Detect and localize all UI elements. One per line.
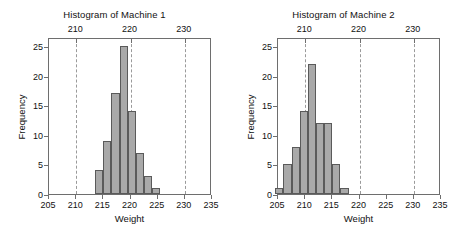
histogram-bar: [120, 46, 128, 194]
top-axis: 210220230: [277, 24, 440, 38]
x-axis-tick-mark: [48, 195, 49, 199]
x-axis-tick-mark: [359, 195, 360, 199]
y-axis-label: Frequency: [16, 47, 27, 187]
histogram-bar: [332, 164, 340, 194]
x-axis-tick-label: 235: [432, 200, 447, 210]
top-axis-tick-label: 210: [68, 24, 83, 34]
top-axis-tick-mark: [305, 39, 306, 43]
x-axis-tick-label: 230: [176, 200, 191, 210]
top-axis-tick-label: 210: [297, 24, 312, 34]
x-axis: Weight 205210215220225230235: [48, 195, 211, 225]
x-axis-tick-mark: [157, 195, 158, 199]
top-axis-tick-mark: [360, 39, 361, 43]
top-axis-tick-label: 230: [176, 24, 191, 34]
y-axis-tick-mark: [44, 47, 48, 48]
histogram-bar: [292, 147, 300, 194]
histogram-bar: [283, 164, 291, 194]
gridline-vertical: [360, 39, 361, 194]
x-axis-label: Weight: [48, 213, 211, 224]
x-axis-tick-label: 235: [203, 200, 218, 210]
x-axis-label: Weight: [277, 213, 440, 224]
gridline-vertical: [76, 39, 77, 194]
y-axis: Frequency 0510152025: [229, 38, 277, 195]
x-axis-tick-label: 225: [149, 200, 164, 210]
x-axis-tick-label: 205: [40, 200, 55, 210]
x-axis-tick-label: 230: [405, 200, 420, 210]
y-axis-tick-label: 15: [262, 101, 272, 111]
chart-panel-machine-2: Histogram of Machine 2 210220230 Frequen…: [229, 0, 458, 238]
y-axis-tick-label: 15: [33, 101, 43, 111]
top-axis-tick-mark: [185, 39, 186, 43]
histogram-bar: [95, 170, 103, 194]
histogram-bar: [136, 153, 144, 194]
histogram-bar: [103, 141, 111, 194]
y-axis-tick-label: 5: [38, 160, 43, 170]
top-axis-tick-label: 220: [351, 24, 366, 34]
y-axis-tick-label: 10: [262, 131, 272, 141]
top-axis-tick-mark: [76, 39, 77, 43]
histogram-bar: [111, 93, 119, 194]
gridline-vertical: [185, 39, 186, 194]
y-axis-tick-mark: [273, 165, 277, 166]
x-axis: Weight 205210215220225230235: [277, 195, 440, 225]
y-axis-tick-label: 10: [33, 131, 43, 141]
y-axis-tick-label: 25: [262, 42, 272, 52]
top-axis-tick-mark: [131, 39, 132, 43]
y-axis-tick-mark: [273, 47, 277, 48]
x-axis-tick-mark: [277, 195, 278, 199]
histogram-bar: [144, 176, 152, 194]
y-axis-tick-label: 0: [267, 190, 272, 200]
x-axis-tick-mark: [331, 195, 332, 199]
y-axis-tick-mark: [44, 77, 48, 78]
histogram-bar: [128, 111, 136, 194]
x-axis-tick-mark: [413, 195, 414, 199]
histogram-figure: Histogram of Machine 1 210220230 Frequen…: [0, 0, 459, 238]
x-axis-tick-label: 210: [68, 200, 83, 210]
x-axis-tick-mark: [130, 195, 131, 199]
y-axis-tick-mark: [44, 165, 48, 166]
chart-title: Histogram of Machine 1: [0, 9, 229, 20]
top-axis-tick-label: 230: [405, 24, 420, 34]
chart-panel-machine-1: Histogram of Machine 1 210220230 Frequen…: [0, 0, 229, 238]
x-axis-tick-label: 215: [324, 200, 339, 210]
top-axis: 210220230: [48, 24, 211, 38]
x-axis-tick-label: 215: [95, 200, 110, 210]
top-axis-tick-mark: [414, 39, 415, 43]
x-axis-tick-mark: [304, 195, 305, 199]
y-axis-label: Frequency: [245, 47, 256, 187]
top-axis-tick-label: 220: [122, 24, 137, 34]
x-axis-tick-label: 205: [269, 200, 284, 210]
histogram-bar: [152, 188, 160, 194]
plot-area: [48, 38, 211, 195]
y-axis: Frequency 0510152025: [0, 38, 48, 195]
y-axis-tick-label: 25: [33, 42, 43, 52]
x-axis-tick-label: 210: [297, 200, 312, 210]
plot-inner: [278, 39, 439, 194]
gridline-vertical: [414, 39, 415, 194]
y-axis-tick-label: 20: [262, 72, 272, 82]
x-axis-tick-mark: [440, 195, 441, 199]
y-axis-tick-label: 5: [267, 160, 272, 170]
y-axis-tick-mark: [44, 106, 48, 107]
x-axis-tick-mark: [102, 195, 103, 199]
histogram-bar: [340, 188, 348, 194]
histogram-bar: [324, 123, 332, 194]
y-axis-tick-mark: [273, 136, 277, 137]
x-axis-tick-label: 220: [351, 200, 366, 210]
y-axis-tick-mark: [273, 106, 277, 107]
x-axis-tick-mark: [184, 195, 185, 199]
y-axis-tick-mark: [273, 77, 277, 78]
plot-inner: [49, 39, 210, 194]
x-axis-tick-mark: [386, 195, 387, 199]
y-axis-tick-label: 0: [38, 190, 43, 200]
histogram-bar: [308, 64, 316, 194]
y-axis-tick-mark: [44, 136, 48, 137]
y-axis-tick-label: 20: [33, 72, 43, 82]
plot-area: [277, 38, 440, 195]
x-axis-tick-mark: [75, 195, 76, 199]
x-axis-tick-mark: [211, 195, 212, 199]
histogram-bar: [316, 123, 324, 194]
chart-title: Histogram of Machine 2: [229, 9, 458, 20]
x-axis-tick-label: 220: [122, 200, 137, 210]
x-axis-tick-label: 225: [378, 200, 393, 210]
